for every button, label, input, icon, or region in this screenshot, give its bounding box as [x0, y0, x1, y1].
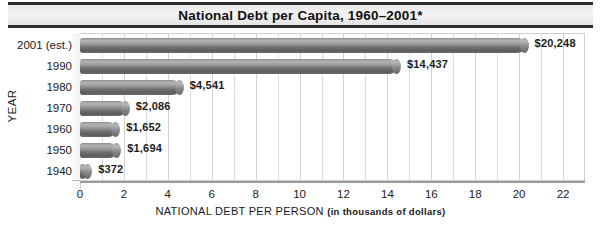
bar-end-cap: [83, 164, 92, 179]
bar-value-label: $2,086: [136, 100, 171, 112]
bar-end-cap: [112, 143, 121, 158]
bar-row[interactable]: $20,248: [0, 35, 601, 56]
x-axis-tick-label: 12: [328, 188, 358, 200]
bar[interactable]: [80, 143, 117, 158]
x-axis-tick-label: 22: [548, 188, 578, 200]
bar[interactable]: [80, 101, 126, 116]
bar[interactable]: [80, 59, 397, 74]
x-axis-tick-label: 4: [153, 188, 183, 200]
x-axis-tick-label: 6: [197, 188, 227, 200]
x-axis-title-units: (in thousands of dollars): [327, 206, 445, 217]
bar-end-cap: [392, 59, 401, 74]
bar-value-label: $1,652: [126, 121, 161, 133]
bar-value-label: $20,248: [535, 37, 576, 49]
x-axis-tick-label: 18: [460, 188, 490, 200]
bar-end-cap: [121, 101, 130, 116]
bar-row[interactable]: $372: [0, 161, 601, 182]
bar-row[interactable]: $4,541: [0, 77, 601, 98]
bar-row[interactable]: $1,652: [0, 119, 601, 140]
bars-layer: $20,248$14,437$4,541$2,086$1,652$1,694$3…: [0, 33, 601, 181]
x-axis-title: NATIONAL DEBT PER PERSON (in thousands o…: [0, 205, 601, 217]
chart-title-banner: National Debt per Capita, 1960–2001*: [8, 2, 593, 28]
bar-value-label: $372: [98, 163, 123, 175]
bar[interactable]: [80, 38, 525, 53]
bar[interactable]: [80, 80, 180, 95]
x-axis-tick-label: 10: [285, 188, 315, 200]
x-axis-tick-label: 20: [504, 188, 534, 200]
bar-row[interactable]: $1,694: [0, 140, 601, 161]
x-axis-tick-label: 2: [109, 188, 139, 200]
bar-end-cap: [111, 122, 120, 137]
chart-title: National Debt per Capita, 1960–2001*: [178, 8, 422, 23]
bar-value-label: $1,694: [127, 142, 162, 154]
x-axis-tick-label: 14: [372, 188, 402, 200]
bar-end-cap: [175, 80, 184, 95]
bar-end-cap: [520, 38, 529, 53]
bar-row[interactable]: $2,086: [0, 98, 601, 119]
bar[interactable]: [80, 164, 88, 179]
x-axis-title-main: NATIONAL DEBT PER PERSON: [155, 205, 323, 217]
bar[interactable]: [80, 122, 116, 137]
x-axis-tick-label: 16: [416, 188, 446, 200]
x-axis-tick-label: 8: [241, 188, 271, 200]
chart-figure: National Debt per Capita, 1960–2001* 200…: [0, 0, 601, 226]
bar-row[interactable]: $14,437: [0, 56, 601, 77]
bar-value-label: $14,437: [407, 58, 448, 70]
bar-value-label: $4,541: [190, 79, 225, 91]
x-axis-tick-label: 0: [65, 188, 95, 200]
